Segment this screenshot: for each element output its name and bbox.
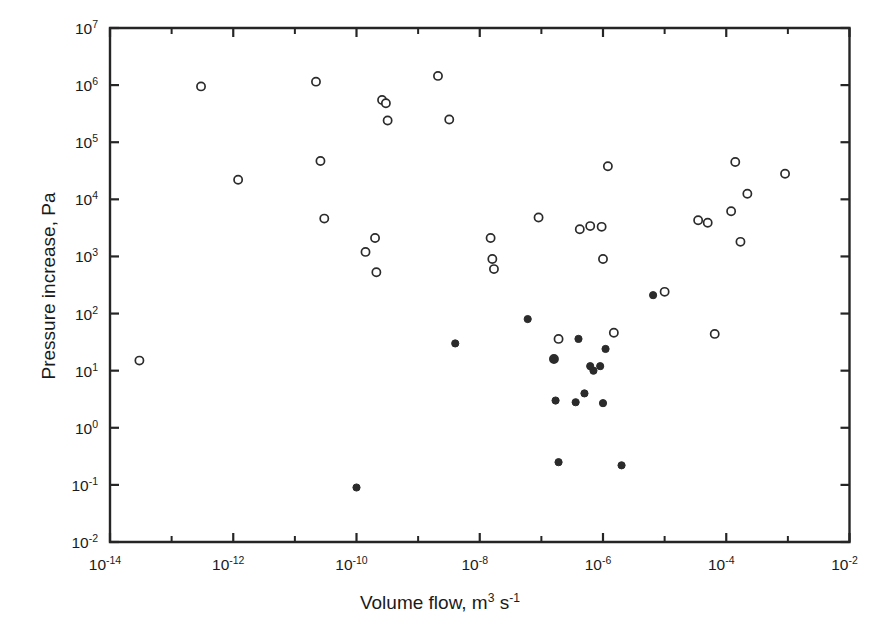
series-filled-circles: [353, 292, 657, 492]
data-point-open-4: [320, 214, 328, 222]
svg-text:10-12: 10-12: [212, 554, 245, 573]
svg-text:103: 103: [75, 246, 98, 265]
x-axis-label: Volume flow, m3 s-1: [0, 592, 880, 614]
x-ticklabel--6: 10-6: [585, 554, 612, 573]
y-ticklabel-4: 104: [75, 189, 98, 208]
data-point-filled-0: [353, 484, 360, 491]
data-point-open-11: [434, 72, 442, 80]
data-point-open-32: [743, 190, 751, 198]
svg-text:100: 100: [75, 418, 98, 437]
data-point-open-7: [372, 268, 380, 276]
data-point-filled-5: [550, 355, 557, 362]
y-ticklabel-1: 101: [75, 361, 98, 380]
data-point-open-3: [316, 157, 324, 165]
chart-figure: 10-1410-1210-1010-810-610-410-2107106105…: [0, 0, 880, 630]
x-axis-label-text: Volume flow, m3 s-1: [360, 592, 520, 613]
data-point-filled-6: [552, 397, 559, 404]
x-axis-label-sup-minus1: -1: [509, 591, 520, 605]
y-ticklabel--1: 10-1: [71, 475, 98, 494]
data-point-open-22: [599, 255, 607, 263]
axis-ticks: [110, 28, 850, 542]
svg-text:10-1: 10-1: [71, 475, 98, 494]
data-point-open-16: [534, 213, 542, 221]
data-point-filled-13: [618, 462, 625, 469]
svg-text:10-8: 10-8: [461, 554, 488, 573]
x-ticklabel--12: 10-12: [212, 554, 245, 573]
svg-text:10-14: 10-14: [89, 554, 122, 573]
data-point-filled-10: [590, 367, 597, 374]
x-ticklabel--14: 10-14: [89, 554, 122, 573]
y-axis-label: Pressure increase, Pa: [10, 130, 50, 460]
svg-text:10-2: 10-2: [71, 532, 98, 551]
x-ticklabel--2: 10-2: [831, 554, 858, 573]
data-point-filled-3: [575, 335, 582, 342]
scatter-plot: 10-1410-1210-1010-810-610-410-2107106105…: [0, 0, 880, 630]
x-axis-label-before: Volume flow, m: [360, 592, 488, 613]
y-axis-label-text: Pressure increase, Pa: [38, 121, 60, 451]
x-ticklabel--4: 10-4: [708, 554, 735, 573]
data-point-open-2: [312, 78, 320, 86]
data-point-filled-1: [452, 340, 459, 347]
data-point-filled-4: [602, 345, 609, 352]
y-ticklabel-5: 105: [75, 132, 98, 151]
data-point-open-6: [371, 234, 379, 242]
data-point-open-12: [445, 115, 453, 123]
data-point-filled-8: [581, 390, 588, 397]
tick-labels: 10-1410-1210-1010-810-610-410-2107106105…: [71, 18, 858, 573]
plot-frame: [110, 28, 850, 542]
y-ticklabel-2: 102: [75, 304, 98, 323]
data-point-open-31: [736, 238, 744, 246]
svg-text:10-10: 10-10: [335, 554, 368, 573]
y-ticklabel-6: 106: [75, 75, 98, 94]
svg-text:10-6: 10-6: [585, 554, 612, 573]
svg-text:10-4: 10-4: [708, 554, 735, 573]
data-point-open-15: [490, 265, 498, 273]
y-ticklabel-7: 107: [75, 18, 98, 37]
data-point-open-27: [704, 219, 712, 227]
data-point-filled-12: [597, 363, 604, 370]
data-point-filled-7: [572, 399, 579, 406]
data-point-open-29: [727, 207, 735, 215]
y-ticklabel-0: 100: [75, 418, 98, 437]
data-point-filled-15: [650, 292, 657, 299]
svg-text:106: 106: [75, 75, 98, 94]
data-point-open-10: [384, 116, 392, 124]
data-point-open-30: [731, 158, 739, 166]
y-ticklabel--2: 10-2: [71, 532, 98, 551]
data-point-open-5: [361, 248, 369, 256]
svg-text:105: 105: [75, 132, 98, 151]
data-point-open-19: [576, 225, 584, 233]
data-point-open-14: [488, 255, 496, 263]
data-point-open-33: [781, 170, 789, 178]
data-point-filled-2: [524, 315, 531, 322]
data-point-open-0: [197, 82, 205, 90]
data-point-open-23: [604, 162, 612, 170]
svg-text:10-2: 10-2: [831, 554, 858, 573]
data-point-open-25: [661, 288, 669, 296]
data-point-open-24: [610, 329, 618, 337]
series-open-circles: [135, 72, 789, 365]
x-ticklabel--8: 10-8: [461, 554, 488, 573]
y-ticklabel-3: 103: [75, 246, 98, 265]
data-point-open-1: [234, 176, 242, 184]
data-point-open-34: [135, 357, 143, 365]
data-point-filled-14: [599, 400, 606, 407]
x-ticklabel--10: 10-10: [335, 554, 368, 573]
data-point-open-18: [554, 335, 562, 343]
svg-text:102: 102: [75, 304, 98, 323]
data-point-open-20: [586, 222, 594, 230]
x-axis-label-mid: s: [494, 592, 509, 613]
svg-text:107: 107: [75, 18, 98, 37]
data-point-filled-11: [555, 459, 562, 466]
svg-text:101: 101: [75, 361, 98, 380]
data-point-open-9: [382, 99, 390, 107]
data-point-open-26: [694, 216, 702, 224]
plot-border: [110, 28, 850, 542]
data-point-open-13: [487, 234, 495, 242]
svg-text:104: 104: [75, 189, 98, 208]
data-point-open-21: [598, 223, 606, 231]
data-point-open-28: [711, 330, 719, 338]
